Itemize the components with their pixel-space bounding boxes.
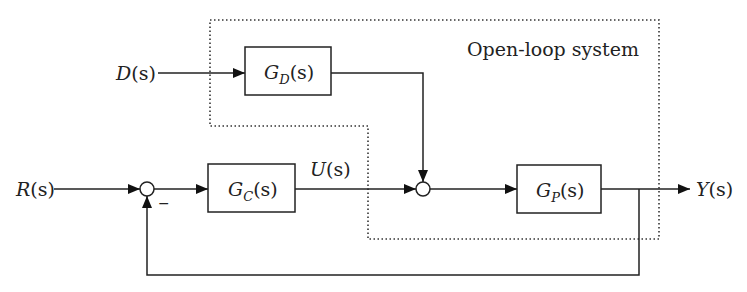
gd-block: GD(s) [245, 47, 331, 95]
open-loop-label: Open-loop system [467, 38, 639, 60]
negative-sign: − [158, 195, 170, 211]
disturbance-summing-junction [416, 182, 430, 196]
block-diagram: Open-loop system D(s) GD(s) R(s) − GC(s)… [0, 0, 747, 292]
error-summing-junction [140, 182, 154, 196]
output-signal-label: Y(s) [696, 178, 733, 200]
disturbance-signal-label: D(s) [115, 62, 156, 84]
gp-block: GP(s) [517, 165, 601, 213]
reference-signal-label: R(s) [15, 178, 55, 200]
gc-block: GC(s) [208, 164, 295, 212]
control-signal-label: U(s) [310, 158, 351, 180]
